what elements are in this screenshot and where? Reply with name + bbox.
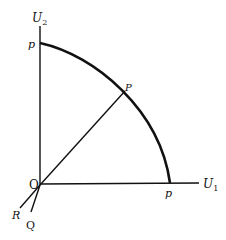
horizontal-axis [40,183,199,184]
frontier-label-right: p [165,187,172,200]
ray-label-r: R [11,209,20,222]
axis-label-u1: U1 [203,177,218,193]
origin-label: O [29,178,39,192]
ray-label-q: Q [26,219,35,232]
diagram-canvas: U2 U1 p p P O R Q [0,0,226,240]
axis-label-u2: U2 [32,11,47,27]
frontier-label-top: p [28,38,35,51]
ray-op [40,91,125,185]
point-label-p: P [124,82,132,93]
